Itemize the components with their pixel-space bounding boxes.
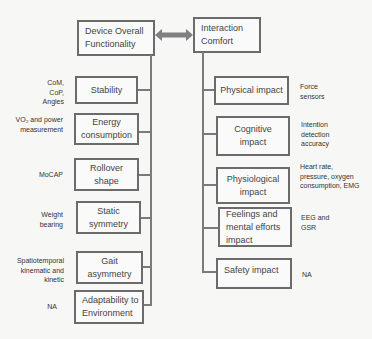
adaptability-box: Adaptability to Environment <box>74 290 144 324</box>
rollover-shape-label: Rollover shape <box>79 162 134 188</box>
physiological-connector <box>203 184 217 186</box>
physical-note: Force sensors <box>300 82 332 101</box>
cognitive-impact-label: Cognitive impact <box>221 123 285 149</box>
interaction-comfort-box: Interaction Comfort <box>193 17 261 53</box>
energy-consumption-label: Energy consumption <box>79 116 134 142</box>
adaptability-note: NA <box>40 302 57 312</box>
feelings-impact-label: Feelings and mental efforts impact <box>226 208 287 247</box>
interaction-comfort-label: Interaction Comfort <box>201 22 256 48</box>
energy-connector <box>139 131 151 133</box>
device-overall-functionality-label: Device Overall Functionality <box>85 25 150 51</box>
adaptability-label: Adaptability to Environment <box>82 294 139 320</box>
physiological-impact-box: Physiological impact <box>216 167 290 204</box>
stability-box: Stability <box>75 76 138 104</box>
feelings-note: EEG and GSR <box>301 213 331 232</box>
physical-impact-box: Physical impact <box>214 76 289 105</box>
adaptability-connector <box>144 304 151 306</box>
energy-consumption-box: Energy consumption <box>74 113 139 145</box>
rollover-shape-box: Rollover shape <box>74 158 139 191</box>
gait-connector <box>143 266 151 268</box>
static-connector <box>141 217 151 219</box>
device-overall-functionality-box: Device Overall Functionality <box>77 20 155 56</box>
physiological-note: Heart rate, pressure, oxygen consumption… <box>300 162 360 191</box>
cognitive-note: Intention detection accuracy <box>301 120 345 149</box>
gait-asymmetry-label: Gait asymmetry <box>81 255 138 281</box>
feelings-connector <box>203 227 218 229</box>
left-trunk-line <box>150 55 152 306</box>
safety-connector <box>203 271 217 273</box>
safety-impact-box: Safety impact <box>216 258 292 289</box>
physical-impact-label: Physical impact <box>220 84 283 97</box>
physiological-impact-label: Physiological impact <box>221 173 285 199</box>
safety-note: NA <box>302 270 322 280</box>
gait-note: Spatiotemporal kinematic and kinetic <box>5 256 64 285</box>
cognitive-impact-box: Cognitive impact <box>216 116 290 156</box>
bidirectional-arrow-icon <box>155 28 193 42</box>
static-note: Weight bearing <box>20 210 63 229</box>
right-trunk-line <box>202 52 204 273</box>
feelings-impact-box: Feelings and mental efforts impact <box>218 207 292 247</box>
static-symmetry-label: Static symmetry <box>81 205 136 231</box>
energy-note: VO₂ and power measurement <box>10 115 63 134</box>
static-symmetry-box: Static symmetry <box>76 201 141 234</box>
safety-impact-label: Safety impact <box>224 264 279 277</box>
stability-label: Stability <box>91 84 123 97</box>
stability-note: CoM, CoP, Angles <box>36 78 64 107</box>
rollover-note: MoCAP <box>20 170 63 180</box>
cognitive-connector <box>203 133 217 135</box>
stability-connector <box>138 89 151 91</box>
rollover-connector <box>139 174 151 176</box>
gait-asymmetry-box: Gait asymmetry <box>76 251 143 284</box>
